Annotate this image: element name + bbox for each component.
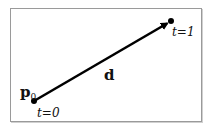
vector-label: d [104,66,115,84]
end-point-dot [168,18,174,24]
start-param-label: t=0 [37,106,60,120]
ray-diagram: p0 t=0 t=1 d [0,0,213,130]
end-param-label: t=1 [172,25,195,39]
start-point-label: p0 [20,83,37,102]
direction-vector-arrow [34,24,167,102]
